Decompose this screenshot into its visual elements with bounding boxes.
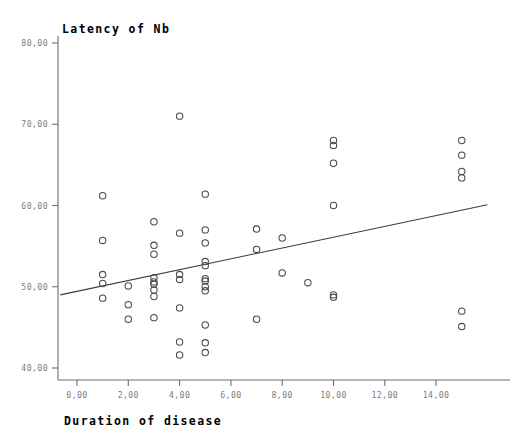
data-point-marker [459, 152, 465, 158]
data-point-marker [125, 316, 131, 322]
data-point-marker [459, 168, 465, 174]
data-point-marker [253, 316, 259, 322]
data-point-marker [202, 340, 208, 346]
data-point-marker [176, 339, 182, 345]
x-tick-label: 8,00 [272, 390, 293, 400]
data-point-marker [176, 230, 182, 236]
x-tick-label: 12,00 [371, 390, 398, 400]
data-point-marker [202, 288, 208, 294]
data-point-marker [99, 237, 105, 243]
y-tick-label: 60,00 [21, 201, 48, 211]
data-point-marker [459, 175, 465, 181]
data-point-marker [151, 314, 157, 320]
data-point-marker [330, 202, 336, 208]
x-tick-label: 2,00 [118, 390, 139, 400]
data-point-marker [459, 137, 465, 143]
data-point-marker [279, 270, 285, 276]
data-point-marker [202, 227, 208, 233]
data-points [99, 113, 464, 358]
data-point-marker [99, 295, 105, 301]
regression-line [60, 205, 487, 295]
data-point-marker [176, 276, 182, 282]
x-tick-label: 14,00 [423, 390, 450, 400]
data-point-marker [125, 301, 131, 307]
data-point-marker [99, 193, 105, 199]
data-point-marker [330, 142, 336, 148]
data-point-marker [305, 279, 311, 285]
regression-line-path [60, 205, 487, 295]
data-point-marker [99, 271, 105, 277]
x-tick-label: 0,00 [66, 390, 87, 400]
axes: 40,0050,0060,0070,0080,000,002,004,006,0… [21, 36, 510, 400]
data-point-marker [151, 219, 157, 225]
data-point-marker [176, 305, 182, 311]
data-point-marker [279, 235, 285, 241]
y-tick-label: 40,00 [21, 363, 48, 373]
data-point-marker [459, 323, 465, 329]
x-axis-title: Duration of disease [64, 414, 222, 428]
data-point-marker [459, 308, 465, 314]
data-point-marker [202, 262, 208, 268]
data-point-marker [253, 226, 259, 232]
plot-canvas: 40,0050,0060,0070,0080,000,002,004,006,0… [0, 0, 517, 445]
data-point-marker [330, 160, 336, 166]
y-tick-label: 70,00 [21, 119, 48, 129]
data-point-marker [151, 251, 157, 257]
x-tick-label: 10,00 [320, 390, 347, 400]
data-point-marker [253, 246, 259, 252]
data-point-marker [202, 349, 208, 355]
x-tick-label: 4,00 [169, 390, 190, 400]
y-tick-label: 50,00 [21, 282, 48, 292]
data-point-marker [125, 283, 131, 289]
data-point-marker [151, 242, 157, 248]
data-point-marker [151, 293, 157, 299]
y-tick-label: 80,00 [21, 38, 48, 48]
data-point-marker [202, 240, 208, 246]
data-point-marker [176, 113, 182, 119]
scatter-plot-figure: Latency of Nb 40,0050,0060,0070,0080,000… [0, 0, 517, 445]
x-tick-label: 6,00 [220, 390, 241, 400]
data-point-marker [202, 322, 208, 328]
data-point-marker [202, 191, 208, 197]
data-point-marker [176, 352, 182, 358]
